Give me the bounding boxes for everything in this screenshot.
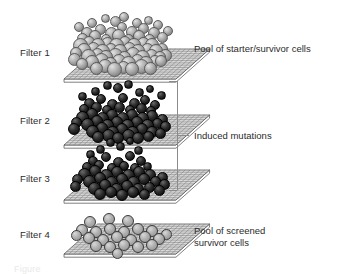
- bracket-end-tick: [169, 190, 177, 191]
- bracket-end-tick: [169, 81, 177, 82]
- figure-caption-fragment: Figure: [14, 264, 41, 274]
- induced-mutations-bracket: [0, 0, 345, 274]
- bracket-leader-tick: [177, 135, 189, 136]
- figure-canvas: Filter 1Filter 2Filter 3Filter 4Pool of …: [0, 0, 345, 274]
